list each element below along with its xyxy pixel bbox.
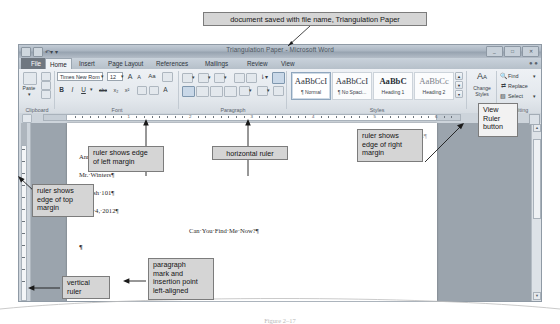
callout-left-margin: ruler shows edge of left margin — [88, 146, 164, 172]
callout-document-saved: document saved with file name, Triangula… — [203, 12, 427, 26]
callout-right-margin: ruler shows edge of right margin — [357, 129, 423, 162]
callout-paragraph-mark: paragraph mark and insertion point left-… — [148, 258, 214, 300]
callout-horizontal-ruler: horizontal ruler — [212, 146, 288, 160]
callout-top-margin: ruler shows edge of top margin — [32, 184, 94, 217]
callout-view-ruler-button: View Ruler button — [478, 103, 518, 137]
callout-vertical-ruler: vertical ruler — [62, 276, 110, 299]
